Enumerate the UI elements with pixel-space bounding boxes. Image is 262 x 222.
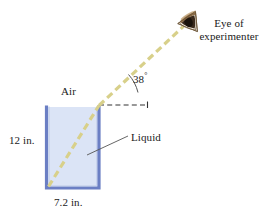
- air-label: Air: [61, 85, 76, 97]
- eye-label: Eye of experimenter: [196, 17, 262, 42]
- liquid-label: Liquid: [131, 131, 161, 143]
- eye-label-line1: Eye of: [196, 17, 262, 29]
- height-dimension-label: 12 in.: [9, 134, 35, 146]
- width-dimension-label: 7.2 in.: [54, 196, 83, 208]
- degree-symbol: °: [144, 71, 147, 80]
- light-ray-in-air: [99, 23, 187, 106]
- angle-label: 38°: [133, 73, 148, 85]
- angle-value: 38: [133, 73, 144, 85]
- eye-label-line2: experimenter: [196, 30, 262, 42]
